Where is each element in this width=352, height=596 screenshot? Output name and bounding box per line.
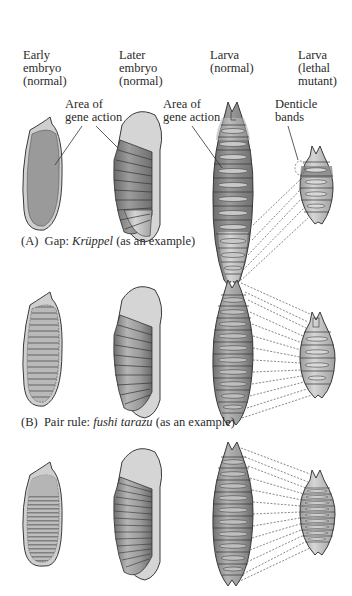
caption-a-letter: (A)	[21, 234, 38, 248]
segmentation-gene-diagram	[0, 0, 352, 596]
caption-panel-a: (A) Gap: Krüppel (as an example)	[21, 234, 195, 249]
caption-b-letter: (B)	[21, 415, 38, 429]
larva-mutant-c	[300, 470, 335, 555]
caption-b-gene: fushi tarazu	[93, 415, 152, 429]
early-embryo-b	[23, 292, 62, 406]
caption-b-category: Pair rule:	[44, 415, 90, 429]
caption-a-gene: Krüppel	[72, 234, 113, 248]
panel-b	[23, 280, 335, 425]
caption-a-suffix: (as an example)	[116, 234, 195, 248]
larva-mutant-b	[300, 312, 335, 398]
larva-normal-a	[213, 102, 253, 285]
later-embryo-b	[114, 287, 162, 418]
early-embryo-c	[23, 462, 62, 566]
caption-panel-b: (B) Pair rule: fushi tarazu (as an examp…	[21, 415, 235, 430]
panel-c	[23, 442, 335, 586]
larva-mutant-a	[295, 146, 333, 224]
larva-normal-c	[213, 442, 253, 586]
caption-a-category: Gap:	[45, 234, 69, 248]
early-embryo-a	[23, 117, 62, 230]
larva-normal-b	[213, 280, 253, 425]
caption-b-suffix: (as an example)	[156, 415, 235, 429]
later-embryo-a	[114, 112, 162, 242]
later-embryo-c	[114, 449, 162, 580]
panel-a	[23, 102, 333, 285]
